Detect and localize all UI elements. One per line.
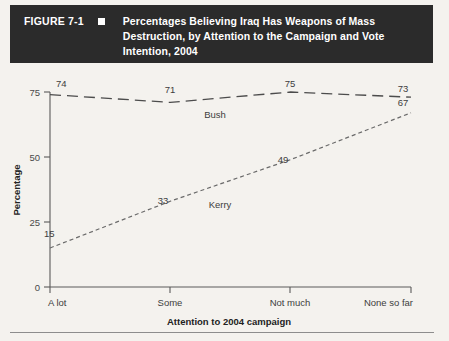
- point-label-kerry-1: 33: [158, 195, 169, 206]
- x-label-not-much: Not much: [270, 297, 311, 308]
- point-label-kerry-0: 15: [44, 228, 55, 239]
- figure-header-banner: FIGURE 7-1 Percentages Believing Iraq Ha…: [10, 5, 433, 63]
- y-tick-label-75: 75: [29, 87, 40, 98]
- point-label-bush-3: 73: [398, 83, 409, 94]
- point-label-kerry-3: 67: [398, 97, 409, 108]
- y-axis-title: Percentage: [11, 164, 22, 215]
- figure-number-label: FIGURE 7-1: [24, 14, 84, 28]
- point-label-kerry-2: 49: [278, 154, 289, 165]
- y-tick-label-25: 25: [29, 217, 40, 228]
- x-label-some: Some: [158, 297, 183, 308]
- series-line-kerry: [50, 113, 411, 248]
- point-label-bush-0: 74: [56, 78, 67, 89]
- series-label-kerry: Kerry: [209, 199, 232, 210]
- y-tick-label-0: 0: [35, 282, 40, 293]
- chart-plot-area: 75 50 25 0 Percentage A lot Some Not muc…: [0, 63, 449, 341]
- point-label-bush-1: 71: [165, 84, 176, 95]
- square-marker-icon: [98, 18, 105, 25]
- y-tick-label-50: 50: [29, 152, 40, 163]
- series-label-bush: Bush: [204, 109, 226, 120]
- point-label-bush-2: 75: [285, 78, 296, 89]
- series-line-bush: [50, 92, 411, 102]
- bottom-divider-rule: [10, 332, 434, 333]
- x-label-none-so-far: None so far: [364, 297, 413, 308]
- figure-title-text: Percentages Believing Iraq Has Weapons o…: [123, 14, 423, 59]
- x-axis-title: Attention to 2004 campaign: [167, 316, 291, 327]
- line-chart-svg: 75 50 25 0 Percentage A lot Some Not muc…: [0, 63, 449, 341]
- x-label-a-lot: A lot: [48, 297, 67, 308]
